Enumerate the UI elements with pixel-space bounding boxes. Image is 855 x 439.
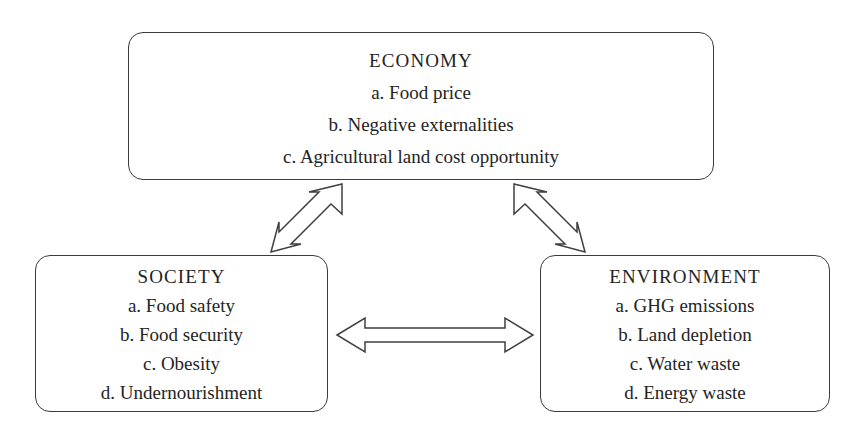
node-environment-item-list: a. GHG emissions b. Land depletion c. Wa… — [541, 296, 829, 402]
node-society-item-list: a. Food safety b. Food security c. Obesi… — [36, 296, 327, 402]
node-economy-item-b: b. Negative externalities — [129, 115, 713, 134]
double-headed-arrow-icon — [514, 184, 585, 252]
node-economy-item-c: c. Agricultural land cost opportunity — [129, 147, 713, 166]
node-environment-item-c: c. Water waste — [541, 354, 829, 373]
node-economy[interactable]: ECONOMY a. Food price b. Negative extern… — [128, 32, 714, 180]
node-society-item-a: a. Food safety — [36, 296, 327, 315]
diagram-canvas: ECONOMY a. Food price b. Negative extern… — [0, 0, 855, 439]
node-economy-item-a: a. Food price — [129, 83, 713, 102]
connector-society-environment-double-arrow[interactable] — [334, 314, 536, 356]
node-environment-item-d: d. Energy waste — [541, 383, 829, 402]
node-society[interactable]: SOCIETY a. Food safety b. Food security … — [35, 255, 328, 412]
node-economy-item-list: a. Food price b. Negative externalities … — [129, 83, 713, 166]
connector-economy-society-double-arrow[interactable] — [268, 182, 348, 254]
double-headed-arrow-icon — [271, 184, 342, 252]
double-headed-arrow-icon — [337, 318, 533, 352]
node-society-item-d: d. Undernourishment — [36, 383, 327, 402]
node-environment-title: ENVIRONMENT — [609, 267, 760, 286]
node-society-item-b: b. Food security — [36, 325, 327, 344]
node-economy-title: ECONOMY — [369, 51, 473, 70]
node-society-title: SOCIETY — [138, 267, 226, 286]
node-environment-item-b: b. Land depletion — [541, 325, 829, 344]
node-society-item-c: c. Obesity — [36, 354, 327, 373]
node-environment-item-a: a. GHG emissions — [541, 296, 829, 315]
connector-economy-environment-double-arrow[interactable] — [508, 182, 588, 254]
node-environment[interactable]: ENVIRONMENT a. GHG emissions b. Land dep… — [540, 255, 830, 412]
